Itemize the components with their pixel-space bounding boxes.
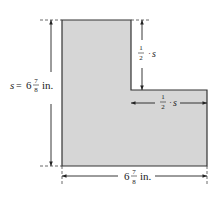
whole-number: 6	[124, 170, 130, 182]
multiplication-dot: ·	[148, 48, 151, 58]
multiplication-dot: ·	[169, 97, 172, 107]
whole-number: 6	[26, 79, 32, 91]
fraction-denominator: 2	[161, 103, 165, 111]
fraction-denominator: 2	[139, 54, 143, 62]
fraction-numerator: 7	[34, 77, 38, 85]
left-dimension-label: s = 6 7 8 in.	[10, 77, 54, 94]
variable-s: s	[173, 97, 177, 108]
variable-s: s	[10, 79, 14, 91]
equals-sign: =	[16, 80, 22, 91]
fraction-numerator: 1	[139, 44, 143, 52]
fraction-numerator: 7	[132, 168, 136, 176]
fraction-numerator: 1	[161, 93, 165, 101]
notch-vertical-label: 1 2 · s	[138, 44, 156, 62]
unit-label: in.	[140, 170, 152, 182]
fraction-denominator: 8	[132, 178, 136, 186]
unit-label: in.	[42, 79, 54, 91]
fraction-denominator: 8	[34, 86, 38, 94]
l-shape-diagram: s = 6 7 8 in. 6 7 8 in. 1 2 · s 1 2 · s	[0, 0, 217, 199]
l-shape	[62, 20, 207, 166]
bottom-dimension-label: 6 7 8 in.	[124, 168, 152, 186]
variable-s: s	[152, 48, 156, 59]
